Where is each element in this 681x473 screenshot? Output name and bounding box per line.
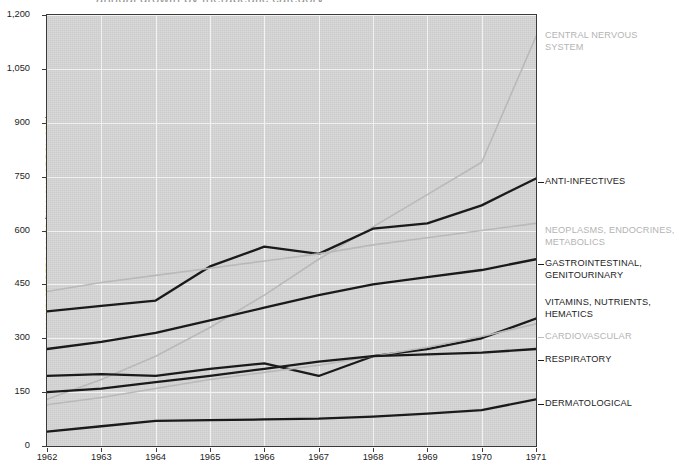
x-tick-label: 1964 [145,452,166,462]
leader-line [538,337,544,338]
series-label-cardiovascular: CARDIOVASCULAR [545,331,632,343]
y-tick-label: 300 [14,332,30,342]
x-tick-mark [47,448,48,452]
x-tick-mark [264,448,265,452]
x-tick-label: 1971 [526,452,547,462]
y-tick-label: 1,200 [7,9,30,19]
series-label-gastrointestinal-genitourinary: GASTROINTESTINAL, GENITOURINARY [545,258,642,281]
x-tick-label: 1968 [363,452,384,462]
leader-line [538,264,544,265]
x-tick-mark [156,448,157,452]
series-label-central-nervous-system: CENTRAL NERVOUS SYSTEM [545,30,638,53]
y-tick-mark [42,15,46,16]
y-tick-label: 600 [14,225,30,235]
x-tick-label: 1970 [471,452,492,462]
x-tick-mark [373,448,374,452]
x-tick-label: 1965 [200,452,221,462]
chart-root: annual growth by therapeutic category MA… [0,0,681,473]
x-tick-mark [482,448,483,452]
x-tick-mark [319,448,320,452]
x-tick-label: 1963 [91,452,112,462]
x-tick-mark [101,448,102,452]
y-tick-mark [42,446,46,447]
x-tick-label: 1962 [37,452,58,462]
y-tick-label: 150 [14,386,30,396]
x-tick-label: 1967 [308,452,329,462]
y-tick-mark [42,123,46,124]
y-tick-label: 0 [25,440,30,450]
y-tick-mark [42,231,46,232]
series-label-anti-infectives: ANTI-INFECTIVES [545,176,625,188]
y-tick-label: 450 [14,278,30,288]
y-tick-mark [42,392,46,393]
x-tick-label: 1969 [417,452,438,462]
leader-line [538,404,544,405]
leader-line [538,360,544,361]
y-tick-mark [42,177,46,178]
y-tick-mark [42,338,46,339]
y-tick-label: 1,050 [7,63,30,73]
series-label-dermatological: DERMATOLOGICAL [545,398,632,410]
leader-line [538,182,544,183]
series-label-vitamins-nutrients-hematics: VITAMINS, NUTRIENTS, HEMATICS [545,297,651,320]
y-tick-mark [42,69,46,70]
x-tick-label: 1966 [254,452,275,462]
y-tick-label: 900 [14,117,30,127]
x-tick-mark [210,448,211,452]
series-label-neoplasms-endocrines-metabolics: NEOPLASMS, ENDOCRINES, METABOLICS [545,225,674,248]
x-tick-mark [427,448,428,452]
y-tick-label: 750 [14,171,30,181]
y-tick-mark [42,284,46,285]
series-label-respiratory: RESPIRATORY [545,354,612,366]
x-tick-mark [536,448,537,452]
